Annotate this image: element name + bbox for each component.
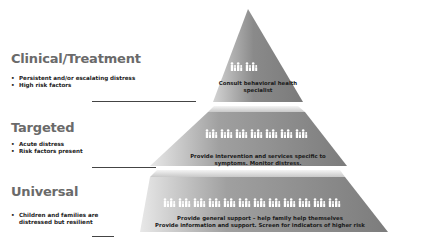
pyramid-text-line: Provide information and support. Screen …: [140, 222, 380, 229]
pyramid-text-line: Provide intervention and services specif…: [178, 153, 338, 160]
pyramid-text-clinical: Consult behavioral health specialist: [208, 80, 308, 94]
pyramid-text-line: symptoms. Monitor distress.: [178, 160, 338, 167]
pyramid-text-line: Provide general support – help family he…: [140, 215, 380, 222]
pyramid-text-universal: Provide general support – help family he…: [140, 215, 380, 229]
pyramid-text-line: specialist: [208, 87, 308, 94]
pyramid-diagram: [0, 0, 426, 248]
pyramid-text-line: Consult behavioral health: [208, 80, 308, 87]
pyramid-text-targeted: Provide intervention and services specif…: [178, 153, 338, 167]
